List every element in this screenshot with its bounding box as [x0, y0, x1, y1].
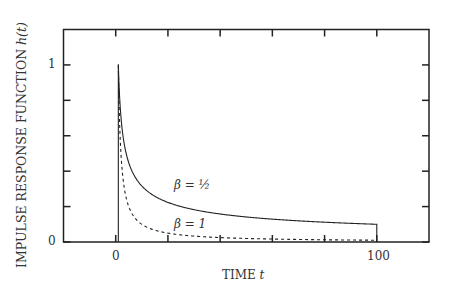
- series-beta-one: [118, 65, 376, 240]
- annotation-beta-half: β = ½: [174, 178, 210, 192]
- y-tick-label-1: 1: [48, 57, 56, 71]
- y-tick-label-0: 0: [48, 234, 56, 248]
- y-axis-label-var: h(t): [14, 22, 29, 45]
- x-tick-label-0: 0: [112, 249, 120, 263]
- y-axis-label: IMPULSE RESPONSE FUNCTION h(t): [14, 22, 29, 268]
- annotation-beta-one: β = 1: [174, 217, 206, 231]
- x-axis-label: TIME t: [222, 268, 264, 282]
- x-tick-label-100: 100: [367, 249, 390, 263]
- series-beta-half: [118, 65, 376, 242]
- x-axis-label-var: t: [260, 268, 265, 282]
- x-axis-label-text: TIME: [222, 268, 260, 282]
- y-axis-label-text: IMPULSE RESPONSE FUNCTION: [14, 45, 29, 268]
